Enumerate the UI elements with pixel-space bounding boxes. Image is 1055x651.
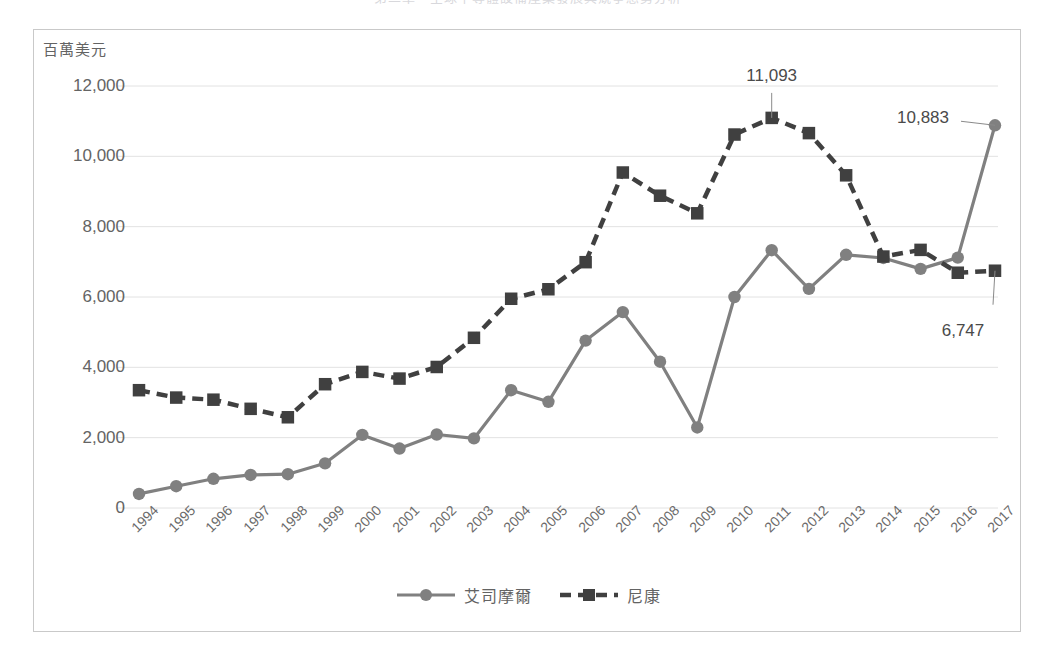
x-tick-label: 2010 — [723, 502, 756, 535]
x-tick-label: 2016 — [947, 502, 980, 535]
legend-label: 艾司摩爾 — [464, 583, 532, 607]
x-tick-label: 2009 — [686, 502, 719, 535]
chart-page: 第二章 全球半導體設備產業發展與競爭態勢分析 百萬美元 02,0004,0006… — [0, 0, 1055, 651]
x-tick-label: 2004 — [500, 502, 533, 535]
legend-item-nikon[interactable]: 尼康 — [558, 583, 661, 607]
x-tick-label: 1999 — [314, 502, 347, 535]
chart-legend: 艾司摩爾尼康 — [0, 583, 1055, 607]
x-tick-label: 2002 — [426, 502, 459, 535]
legend-circle-marker-icon — [395, 586, 457, 604]
x-tick-label: 2014 — [872, 502, 905, 535]
data-label: 10,883 — [897, 108, 949, 128]
data-label: 6,747 — [942, 321, 985, 341]
x-tick-label: 2005 — [537, 502, 570, 535]
x-tick-label: 1994 — [128, 502, 161, 535]
x-tick-label: 2000 — [351, 502, 384, 535]
x-tick-label: 2012 — [798, 502, 831, 535]
legend-item-asml[interactable]: 艾司摩爾 — [395, 583, 532, 607]
x-tick-label: 2017 — [984, 502, 1017, 535]
data-label: 11,093 — [746, 66, 797, 86]
x-tick-label: 1995 — [165, 502, 198, 535]
legend-square-marker-icon — [558, 586, 620, 604]
x-tick-label: 2007 — [612, 502, 645, 535]
x-tick-label: 2013 — [835, 502, 868, 535]
x-tick-label: 1998 — [277, 502, 310, 535]
x-tick-label: 2015 — [910, 502, 943, 535]
x-tick-label: 2008 — [649, 502, 682, 535]
x-tick-label: 1996 — [202, 502, 235, 535]
x-axis-tick-labels: 1994199519961997199819992000200120022003… — [0, 0, 1055, 651]
x-tick-label: 2011 — [761, 503, 794, 536]
x-tick-label: 2006 — [575, 502, 608, 535]
x-tick-label: 1997 — [240, 502, 273, 535]
legend-label: 尼康 — [627, 583, 661, 607]
x-tick-label: 2003 — [463, 502, 496, 535]
x-tick-label: 2001 — [389, 502, 422, 535]
